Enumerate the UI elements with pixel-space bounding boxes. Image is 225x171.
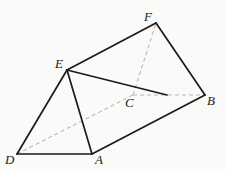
edge-AB [92,95,205,154]
label-A: A [94,152,103,167]
edge-BF [156,23,205,95]
label-F: F [143,9,153,24]
edge-E-to-CB-point [67,70,167,95]
label-B: B [207,93,215,108]
edge-EA [67,70,92,154]
edge-FE [67,23,156,70]
vertex-labels: A B C D E F [4,9,215,167]
hidden-edges [17,23,205,154]
prism-diagram: A B C D E F [0,0,225,171]
visible-edges [17,23,205,154]
label-C: C [125,95,134,110]
label-E: E [54,56,63,71]
edge-DE [17,70,67,154]
label-D: D [4,152,15,167]
